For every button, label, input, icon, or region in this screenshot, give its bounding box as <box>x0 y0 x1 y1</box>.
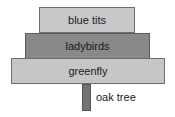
tier-label-blue-tits: blue tits <box>68 14 106 26</box>
oak-tree-trunk <box>82 84 91 111</box>
tier-label-ladybirds: ladybirds <box>65 40 109 52</box>
tier-label-greenfly: greenfly <box>68 65 107 77</box>
tier-greenfly: greenfly <box>11 58 165 84</box>
oak-tree-label: oak tree <box>96 91 136 103</box>
tier-ladybirds: ladybirds <box>25 33 150 59</box>
tier-blue-tits: blue tits <box>39 7 135 33</box>
